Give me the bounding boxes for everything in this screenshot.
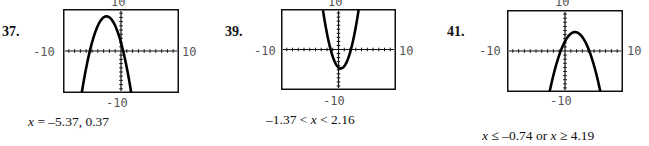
answer-39: –1.37 < x < 2.16: [266, 112, 355, 128]
ymin-label: -10: [550, 95, 572, 107]
graph-37: [63, 9, 179, 93]
problem-number-37: 37.: [2, 24, 20, 40]
answer-37: x = –5.37, 0.37: [28, 114, 109, 130]
ymax-label: 10: [111, 0, 125, 8]
xmax-label: 10: [182, 46, 196, 58]
ymax-label: 10: [328, 0, 342, 8]
problem-number-39: 39.: [225, 24, 243, 40]
answer-41: x ≤ –0.74 or x ≥ 4.19: [482, 128, 594, 144]
graph-39: [281, 9, 396, 90]
xmax-label: 10: [627, 45, 641, 57]
xmin-label: -10: [254, 45, 276, 57]
xmin-label: -10: [479, 45, 501, 57]
graph-41: [507, 10, 623, 92]
problem-number-41: 41.: [447, 24, 465, 40]
ymax-label: 10: [555, 0, 569, 8]
xmin-label: -10: [33, 46, 55, 58]
ymin-label: -10: [323, 95, 345, 107]
xmax-label: 10: [399, 45, 413, 57]
ymin-label: -10: [106, 97, 128, 109]
